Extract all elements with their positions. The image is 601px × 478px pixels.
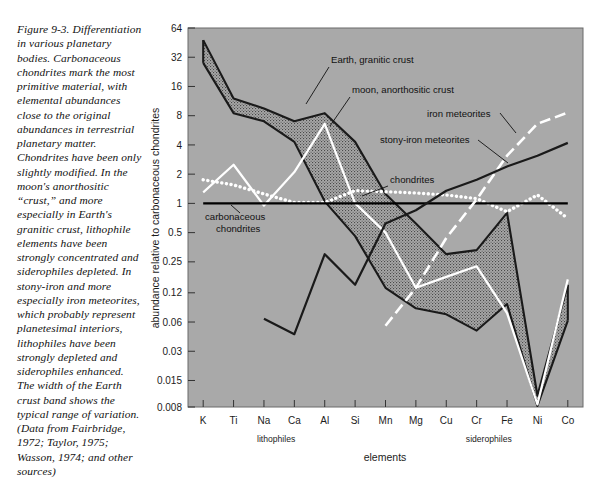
y-tick-label: 0.12: [163, 287, 183, 298]
y-tick-label: 0.06: [163, 317, 183, 328]
y-tick-label: 8: [176, 110, 182, 121]
x-axis-title: elements: [364, 451, 407, 463]
y-tick-label: 0.008: [157, 402, 182, 413]
ann-chondrites: chondrites: [390, 174, 434, 185]
x-tick-label-Ti: Ti: [230, 415, 238, 426]
element-group-labels: lithophilessiderophiles: [257, 434, 512, 444]
ann-stonyiron: stony-iron meteorites: [380, 134, 470, 145]
y-tick-label: 16: [171, 81, 183, 92]
x-tick-label-Cr: Cr: [471, 415, 482, 426]
y-tick-label: 0.03: [163, 346, 183, 357]
ann-moon: moon, anorthositic crust: [352, 84, 454, 95]
x-tick-label-Na: Na: [258, 415, 271, 426]
x-tick-label-Al: Al: [320, 415, 329, 426]
ann-earth: Earth, granitic crust: [331, 54, 414, 65]
y-tick-label: 0.015: [157, 375, 182, 386]
x-tick-label-Mn: Mn: [379, 415, 393, 426]
ann-carbon: carbonaceous: [205, 211, 265, 222]
x-tick-label-Co: Co: [561, 415, 574, 426]
y-axis-title: abundance relative to carbonaceous chond…: [149, 108, 161, 329]
y-tick-label: 0.25: [163, 256, 183, 267]
y-tick-label: 64: [171, 23, 183, 34]
x-tick-label-Cu: Cu: [440, 415, 453, 426]
x-tick-label-Ca: Ca: [288, 415, 301, 426]
x-tick-label-K: K: [200, 415, 207, 426]
x-tick-label-Si: Si: [351, 415, 360, 426]
ann-iron: iron meteorites: [427, 108, 491, 119]
x-tick-label-Fe: Fe: [501, 415, 513, 426]
ann-carbon2: chondrites: [216, 223, 260, 234]
group-label-siderophiles: siderophiles: [466, 434, 512, 444]
y-tick-label: 32: [171, 52, 183, 63]
y-tick-label: 0.5: [168, 227, 182, 238]
x-tick-label-Ni: Ni: [533, 415, 542, 426]
group-label-lithophiles: lithophiles: [257, 434, 295, 444]
y-tick-label: 2: [176, 169, 182, 180]
y-tick-label: 1: [176, 198, 182, 209]
y-tick-label: 4: [176, 140, 182, 151]
x-tick-label-Mg: Mg: [409, 415, 423, 426]
